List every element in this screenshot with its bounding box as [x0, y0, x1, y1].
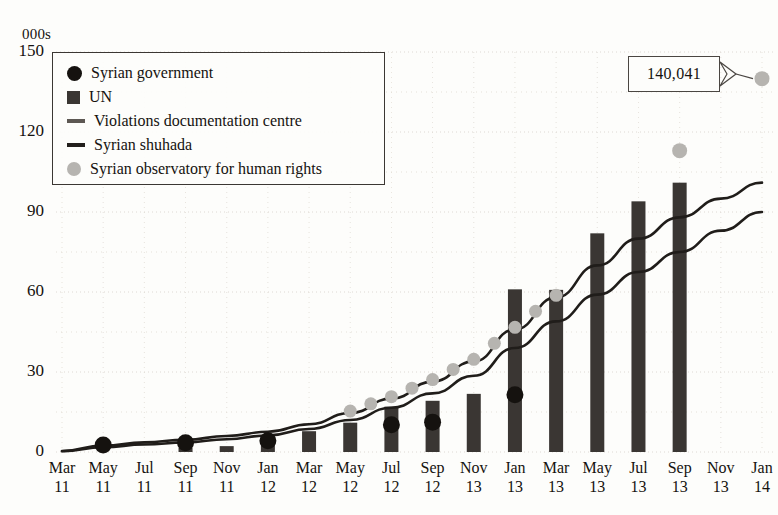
sohr-dot — [529, 305, 542, 318]
x-tick-label: Jan13 — [492, 458, 538, 496]
x-tick-year: 12 — [368, 477, 414, 496]
sohr-dot — [755, 71, 770, 86]
x-tick-month: Jan — [751, 459, 772, 476]
x-tick-label: Mar11 — [39, 458, 85, 496]
bar-un — [467, 394, 481, 452]
x-tick-year: 12 — [410, 477, 456, 496]
x-tick-month: Mar — [543, 459, 570, 476]
gov-dot — [383, 416, 400, 433]
x-tick-year: 13 — [657, 477, 703, 496]
x-tick-label: Jan14 — [739, 458, 778, 496]
gov-dot — [177, 434, 194, 451]
x-tick-month: May — [583, 459, 612, 476]
legend-item: Syrian shuhada — [67, 134, 192, 156]
x-tick-label: Nov13 — [698, 458, 744, 496]
x-tick-month: Sep — [421, 459, 445, 476]
x-tick-month: May — [336, 459, 365, 476]
x-tick-month: Nov — [460, 459, 488, 476]
legend-item-label: Violations documentation centre — [94, 113, 302, 129]
sohr-dot — [508, 321, 521, 334]
bar-un — [673, 183, 687, 452]
sohr-dot — [426, 373, 439, 386]
x-tick-label: Mar13 — [533, 458, 579, 496]
bar-un — [302, 431, 316, 452]
x-tick-year: 11 — [163, 477, 209, 496]
legend-marker-dot-dark-icon — [67, 66, 82, 81]
legend-marker-dot-gray-icon — [67, 162, 81, 176]
x-tick-month: Sep — [174, 459, 198, 476]
callout-value: 140,041 — [647, 65, 701, 83]
sohr-dot — [447, 363, 460, 376]
x-tick-year: 12 — [286, 477, 332, 496]
x-tick-label: Jan12 — [245, 458, 291, 496]
gov-dot — [259, 432, 276, 449]
x-tick-label: Nov13 — [451, 458, 497, 496]
x-tick-month: Jul — [382, 459, 401, 476]
x-tick-label: May13 — [574, 458, 620, 496]
x-tick-year: 13 — [533, 477, 579, 496]
x-tick-month: Jul — [629, 459, 648, 476]
gov-dot — [95, 437, 112, 454]
x-tick-label: May11 — [80, 458, 126, 496]
x-tick-year: 11 — [204, 477, 250, 496]
x-tick-year: 13 — [451, 477, 497, 496]
legend-marker-square-dark-icon — [67, 91, 80, 104]
x-tick-year: 14 — [739, 477, 778, 496]
x-tick-label: Jul11 — [121, 458, 167, 496]
x-tick-label: Nov11 — [204, 458, 250, 496]
legend-item: Violations documentation centre — [67, 110, 302, 132]
x-tick-year: 13 — [574, 477, 620, 496]
x-tick-month: Nov — [707, 459, 735, 476]
sohr-dot — [467, 353, 480, 366]
y-tick-label: 90 — [0, 201, 44, 221]
x-tick-month: May — [89, 459, 118, 476]
x-tick-year: 12 — [245, 477, 291, 496]
x-tick-label: Jul13 — [615, 458, 661, 496]
sohr-dot — [344, 405, 357, 418]
final-value-callout: 140,041 — [628, 56, 720, 92]
legend-marker-line-dark-icon — [67, 143, 85, 147]
x-tick-year: 11 — [80, 477, 126, 496]
chart-root: 000s 0306090120150 Mar11May11Jul11Sep11N… — [0, 0, 778, 515]
sohr-dot — [385, 390, 398, 403]
gov-dot — [506, 386, 523, 403]
bar-un — [549, 290, 563, 452]
sohr-dot — [488, 337, 501, 350]
chart-legend: Syrian governmentUNViolations documentat… — [52, 52, 385, 185]
x-tick-month: Jan — [257, 459, 278, 476]
legend-item-label: Syrian shuhada — [94, 137, 192, 153]
legend-item-label: Syrian observatory for human rights — [90, 161, 322, 177]
legend-item: UN — [67, 86, 112, 108]
x-tick-month: Jan — [504, 459, 525, 476]
gov-dot — [424, 414, 441, 431]
x-tick-label: Jul12 — [368, 458, 414, 496]
y-tick-label: 30 — [0, 361, 44, 381]
x-tick-label: May12 — [327, 458, 373, 496]
x-tick-year: 12 — [327, 477, 373, 496]
sohr-dot — [550, 289, 563, 302]
bar-un — [220, 446, 234, 452]
sohr-dot — [406, 382, 419, 395]
x-tick-year: 13 — [698, 477, 744, 496]
x-tick-month: Sep — [668, 459, 692, 476]
x-tick-year: 13 — [492, 477, 538, 496]
legend-marker-line-gray-icon — [67, 119, 85, 123]
legend-item-label: UN — [89, 89, 112, 105]
bar-un — [508, 289, 522, 452]
y-tick-label: 60 — [0, 281, 44, 301]
x-tick-month: Nov — [213, 459, 241, 476]
callout-leader-line — [736, 74, 753, 79]
legend-item-label: Syrian government — [91, 65, 213, 81]
x-tick-label: Sep12 — [410, 458, 456, 496]
sohr-dot — [672, 143, 687, 158]
legend-item: Syrian government — [67, 62, 213, 84]
x-tick-year: 13 — [615, 477, 661, 496]
x-tick-month: Mar — [296, 459, 323, 476]
x-tick-month: Jul — [135, 459, 154, 476]
legend-item: Syrian observatory for human rights — [67, 158, 322, 180]
y-tick-label: 120 — [0, 121, 44, 141]
y-tick-label: 0 — [0, 441, 44, 461]
bar-un — [343, 423, 357, 452]
callout-pointer — [720, 62, 736, 86]
line-violations-documentation-centre — [62, 183, 762, 451]
